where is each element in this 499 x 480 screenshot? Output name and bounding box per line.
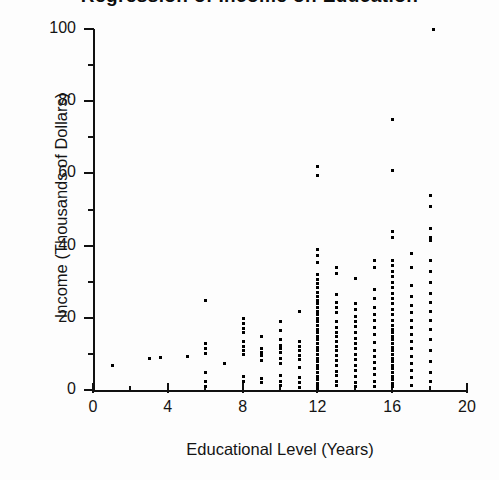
data-point: [391, 281, 394, 284]
data-point: [316, 261, 319, 264]
data-point: [354, 337, 357, 340]
data-point: [316, 273, 319, 276]
data-point: [279, 329, 282, 332]
data-point: [335, 364, 338, 367]
data-point: [410, 326, 413, 329]
data-point: [316, 174, 319, 177]
data-point: [204, 342, 207, 345]
data-point: [391, 236, 394, 239]
data-point: [242, 322, 245, 325]
data-point: [316, 367, 319, 370]
data-point: [316, 278, 319, 281]
data-point: [373, 319, 376, 322]
data-point: [391, 264, 394, 267]
data-point: [298, 349, 301, 352]
data-point: [373, 367, 376, 370]
data-point: [429, 236, 432, 239]
data-point: [316, 248, 319, 251]
data-point: [316, 254, 319, 257]
data-point: [354, 308, 357, 311]
data-point: [316, 313, 319, 316]
data-point: [354, 358, 357, 361]
data-point: [391, 302, 394, 305]
data-point: [279, 384, 282, 387]
data-point: [298, 340, 301, 343]
data-point: [298, 386, 301, 389]
data-point: [316, 310, 319, 313]
data-point: [242, 353, 245, 356]
data-point: [204, 371, 207, 374]
data-point: [335, 326, 338, 329]
data-point: [260, 335, 263, 338]
data-point: [410, 340, 413, 343]
data-point: [204, 352, 207, 355]
data-point: [242, 340, 245, 343]
data-point: [391, 275, 394, 278]
data-point: [391, 378, 394, 381]
data-point: [242, 327, 245, 330]
data-point: [410, 319, 413, 322]
data-point: [204, 299, 207, 302]
data-point: [279, 351, 282, 354]
data-point: [298, 310, 301, 313]
data-point: [316, 346, 319, 349]
data-point: [410, 333, 413, 336]
data-point: [335, 345, 338, 348]
data-point: [373, 373, 376, 376]
data-point: [410, 355, 413, 358]
data-point: [410, 252, 413, 255]
data-point: [391, 331, 394, 334]
data-point: [373, 326, 376, 329]
data-point: [391, 375, 394, 378]
data-point: [242, 375, 245, 378]
data-point: [298, 354, 301, 357]
data-point: [391, 324, 394, 327]
data-point: [354, 381, 357, 384]
data-point: [335, 331, 338, 334]
data-point: [316, 342, 319, 345]
data-point: [335, 380, 338, 383]
data-point: [354, 385, 357, 388]
data-point: [429, 281, 432, 284]
data-point: [373, 288, 376, 291]
data-point: [391, 357, 394, 360]
data-point: [111, 364, 114, 367]
data-point: [260, 359, 263, 362]
data-point: [316, 382, 319, 385]
data-point: [373, 349, 376, 352]
data-point: [429, 360, 432, 363]
data-point: [354, 325, 357, 328]
data-point: [429, 292, 432, 295]
data-point: [316, 282, 319, 285]
data-point: [391, 385, 394, 388]
data-point: [279, 344, 282, 347]
data-point: [316, 299, 319, 302]
data-point: [429, 310, 432, 313]
data-point: [316, 302, 319, 305]
data-point: [316, 320, 319, 323]
data-point: [316, 295, 319, 298]
data-point: [410, 384, 413, 387]
data-point: [223, 362, 226, 365]
data-point: [316, 286, 319, 289]
data-point: [410, 311, 413, 314]
data-point: [391, 169, 394, 172]
data-point: [279, 338, 282, 341]
data-point: [260, 377, 263, 380]
data-point: [391, 286, 394, 289]
data-point: [316, 353, 319, 356]
data-point: [316, 375, 319, 378]
data-point: [298, 366, 301, 369]
data-point: [242, 380, 245, 383]
data-point: [391, 367, 394, 370]
data-point: [316, 335, 319, 338]
data-point: [335, 272, 338, 275]
data-point: [298, 345, 301, 348]
data-point: [410, 362, 413, 365]
data-point: [391, 346, 394, 349]
data-point: [204, 385, 207, 388]
scatter-plot-figure: Regression of Income on Education Income…: [0, 0, 499, 480]
data-point: [335, 293, 338, 296]
data-point: [354, 302, 357, 305]
data-point: [335, 311, 338, 314]
